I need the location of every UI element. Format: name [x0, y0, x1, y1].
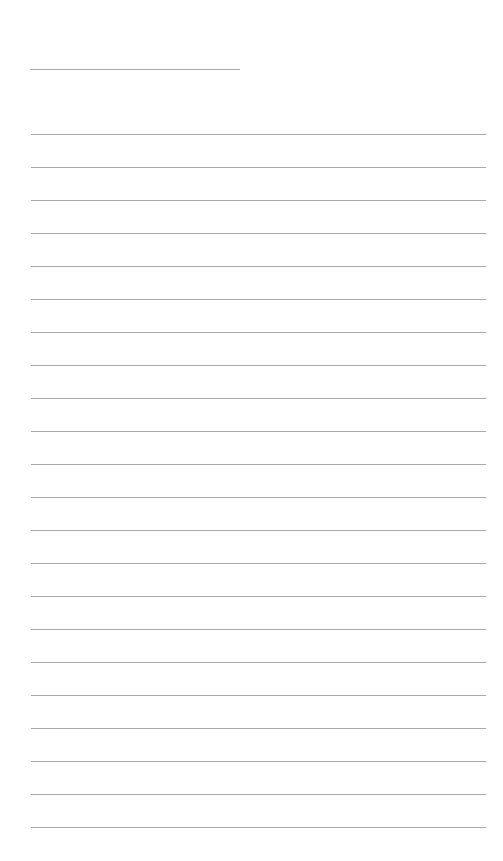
writing-line: [31, 794, 486, 795]
writing-line: [31, 662, 486, 663]
writing-line: [31, 134, 486, 135]
writing-line: [31, 530, 486, 531]
writing-line: [31, 497, 486, 498]
writing-line: [31, 398, 486, 399]
writing-line: [31, 233, 486, 234]
writing-line: [31, 695, 486, 696]
writing-line: [31, 332, 486, 333]
writing-line: [31, 299, 486, 300]
writing-line: [31, 761, 486, 762]
lined-page: [0, 0, 503, 861]
writing-line: [31, 464, 486, 465]
writing-line: [31, 167, 486, 168]
writing-line: [31, 629, 486, 630]
writing-line: [31, 266, 486, 267]
title-line: [30, 69, 240, 70]
writing-line: [31, 431, 486, 432]
writing-line: [31, 728, 486, 729]
writing-line: [31, 200, 486, 201]
writing-line: [31, 563, 486, 564]
writing-line: [31, 827, 486, 828]
writing-line: [31, 365, 486, 366]
writing-line: [31, 596, 486, 597]
